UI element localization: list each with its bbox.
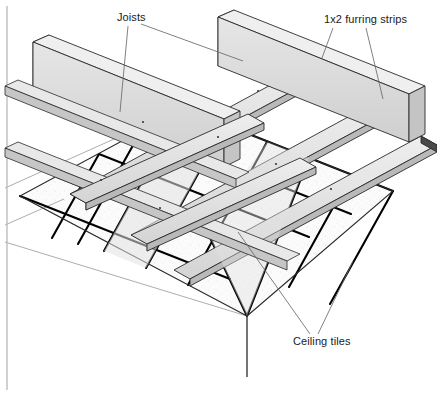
label-ceiling-tiles: Ceiling tiles [293,335,351,347]
diagram-canvas [0,0,437,396]
ceiling-framing-diagram: Joists 1x2 furring strips Ceiling tiles [0,0,437,396]
label-joists: Joists [117,11,146,23]
label-furring-strips: 1x2 furring strips [324,13,407,25]
